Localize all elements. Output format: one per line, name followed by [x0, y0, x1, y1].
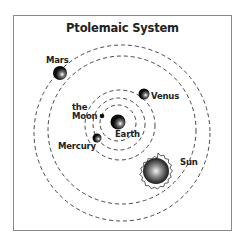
mars-icon — [53, 66, 67, 80]
sun-icon — [140, 153, 173, 189]
earth-icon — [111, 115, 126, 130]
moon-icon — [100, 114, 105, 119]
mercury-label: Mercury — [58, 142, 96, 151]
mars-label: Mars — [46, 56, 69, 65]
ptolemaic-diagram — [0, 0, 249, 246]
venus-label: Venus — [151, 92, 179, 101]
moon-label-line2: Moon — [72, 112, 97, 121]
venus-icon — [139, 89, 150, 100]
diagram-title: Ptolemaic System — [13, 21, 232, 35]
sun-label: Sun — [180, 158, 198, 167]
earth-label: Earth — [115, 130, 140, 139]
